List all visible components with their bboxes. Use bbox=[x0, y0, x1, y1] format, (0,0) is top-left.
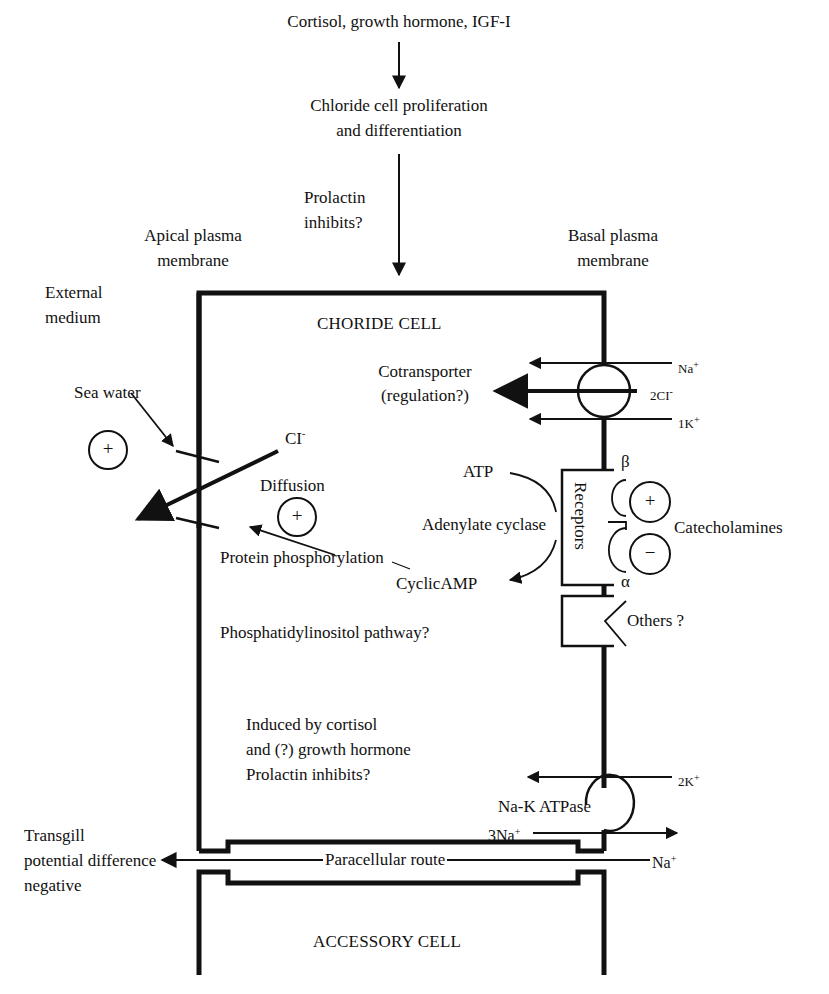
phosphatidylinositol-label: Phosphatidylinositol pathway? bbox=[220, 623, 429, 643]
proliferation-label-2: and differentiation bbox=[270, 121, 528, 141]
prolactin-label-1: Prolactin bbox=[304, 188, 365, 208]
receptors-label: Receptors bbox=[570, 482, 590, 550]
external-medium-label-2: medium bbox=[45, 308, 101, 328]
apical-membrane-label-1: Apical plasma bbox=[128, 226, 258, 246]
alpha-label: α bbox=[621, 572, 630, 592]
catecholamine-minus-icon: − bbox=[640, 543, 660, 563]
catecholamine-plus-icon: + bbox=[640, 491, 660, 511]
na-k-atpase-label: Na-K ATPase bbox=[498, 797, 591, 817]
na3-ion-label: 3Na+ bbox=[488, 822, 520, 846]
basal-membrane-label-1: Basal plasma bbox=[548, 226, 678, 246]
cotransporter-label-2: (regulation?) bbox=[360, 386, 490, 406]
transgill-label-3: negative bbox=[24, 876, 82, 896]
adenylate-cyclase-label: Adenylate cyclase bbox=[422, 515, 546, 535]
proliferation-label-1: Chloride cell proliferation bbox=[270, 96, 528, 116]
induced-label-2: and (?) growth hormone bbox=[246, 740, 411, 760]
accessory-cell-top bbox=[199, 872, 604, 975]
hormones-label: Cortisol, growth hormone, IGF-I bbox=[246, 12, 552, 32]
diffusion-plus-icon: + bbox=[287, 506, 307, 526]
paracellular-route-label: Paracellular route bbox=[323, 850, 447, 870]
atp-label: ATP bbox=[463, 462, 493, 482]
catecholamines-label: Catecholamines bbox=[674, 518, 783, 538]
prolactin-label-2: inhibits? bbox=[304, 213, 363, 233]
diagram-lines bbox=[0, 0, 829, 994]
protein-phosphorylation-label: Protein phosphorylation bbox=[220, 548, 384, 568]
sea-water-label: Sea water bbox=[74, 383, 141, 403]
transgill-label-1: Transgill bbox=[24, 826, 85, 846]
chloride-cell-title: CHORIDE CELL bbox=[317, 314, 442, 334]
cl-ion-label: CI- bbox=[285, 424, 305, 449]
k2-ion-label: 2K+ bbox=[678, 768, 700, 792]
na-ion-label: Na+ bbox=[678, 355, 699, 379]
cyclic-amp-label: CyclicAMP bbox=[396, 574, 477, 594]
basal-membrane-label-2: membrane bbox=[548, 251, 678, 271]
external-medium-label-1: External bbox=[45, 283, 103, 303]
accessory-cell-title: ACCESSORY CELL bbox=[313, 932, 461, 952]
k-ion-label: 1K+ bbox=[678, 410, 700, 434]
cl-2-ion-label: 2CI- bbox=[650, 382, 673, 406]
beta-label: β bbox=[621, 452, 630, 472]
paracellular-na-label: Na+ bbox=[652, 849, 676, 873]
induced-label-1: Induced by cortisol bbox=[246, 715, 377, 735]
diffusion-label: Diffusion bbox=[260, 476, 325, 496]
others-label: Others ? bbox=[627, 611, 684, 631]
induced-label-3: Prolactin inhibits? bbox=[246, 765, 370, 785]
plus-icon: + bbox=[98, 439, 118, 459]
transgill-label-2: potential difference bbox=[24, 851, 156, 871]
cotransporter-label-1: Cotransporter bbox=[360, 362, 490, 382]
cl-diffusion-arrow bbox=[138, 451, 278, 519]
na-k-atpase-circle bbox=[586, 775, 634, 831]
apical-membrane-label-2: membrane bbox=[128, 251, 258, 271]
